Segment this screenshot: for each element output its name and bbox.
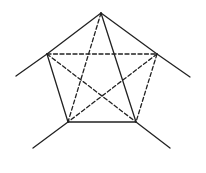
solid-edge-top-left [47,13,101,54]
pentagon-diagram [0,0,206,173]
ray-left [16,54,47,76]
solid-edge-top-bottom_right [101,13,136,122]
ray-bottom_right [136,122,170,148]
solid-edge-top-right [101,13,157,54]
ray-bottom_left [33,122,68,148]
dashed-edge-right-bottom_left [68,54,157,122]
dashed-edge-top-bottom_left [68,13,101,122]
ray-right [157,54,190,77]
solid-edge-left-bottom_left [47,54,68,122]
extension-rays [16,54,190,148]
dashed-edge-left-bottom_right [47,54,136,122]
dashed-edge-right-bottom_right [136,54,157,122]
